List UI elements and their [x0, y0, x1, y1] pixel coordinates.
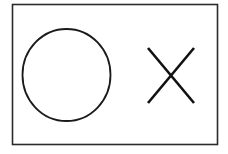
frame-border	[13, 5, 218, 145]
figure-svg	[0, 0, 228, 154]
diagram-canvas	[0, 0, 228, 154]
